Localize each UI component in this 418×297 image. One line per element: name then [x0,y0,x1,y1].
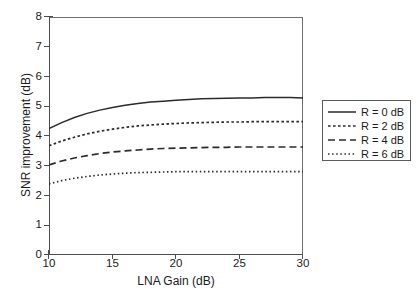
legend-item-label: R = 4 dB [357,134,404,146]
x-axis-label: LNA Gain (dB) [49,274,303,288]
chart-figure: 012345678 1015202530 LNA Gain (dB) SNR i… [0,0,418,297]
legend-line-sample [327,149,357,159]
x-tick-label: 30 [283,257,323,270]
x-tick-label: 20 [156,257,196,270]
legend-item[interactable]: R = 4 dB [323,133,410,146]
series-line [49,172,303,184]
legend-line-sample [327,121,357,131]
chart-legend: R = 0 dBR = 2 dBR = 4 dBR = 6 dB [322,100,411,161]
x-tick-label: 15 [93,257,133,270]
x-tick-label: 10 [29,257,69,270]
legend-item-label: R = 0 dB [357,106,404,118]
legend-line-sample [327,107,357,117]
legend-item-label: R = 6 dB [357,148,404,160]
series-line [49,147,303,165]
x-tick-label: 25 [220,257,260,270]
legend-item[interactable]: R = 6 dB [323,147,410,160]
series-line [49,98,303,129]
legend-item[interactable]: R = 2 dB [323,119,410,132]
y-tick-label-text: 8 [20,11,42,23]
y-tick-label: 8 [20,11,42,23]
y-axis-label: SNR improvement (dB) [19,45,33,225]
legend-item[interactable]: R = 0 dB [323,105,410,118]
series-line [49,122,303,146]
legend-line-sample [327,135,357,145]
data-curves [49,17,303,255]
legend-item-label: R = 2 dB [357,120,404,132]
